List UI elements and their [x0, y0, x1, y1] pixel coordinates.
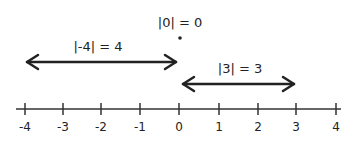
zero-annotation: |0| = 0 — [158, 15, 202, 40]
three-annotation: |3| = 3 — [183, 61, 294, 91]
tick-label: 4 — [332, 120, 340, 134]
neg-four-label: |-4| = 4 — [73, 39, 122, 54]
tick-label: -4 — [19, 120, 31, 134]
three-label: |3| = 3 — [218, 61, 262, 76]
double-arrow-icon — [27, 55, 176, 69]
tick-label: 3 — [292, 120, 300, 134]
tick-label: -2 — [95, 120, 107, 134]
number-line-diagram: -4 -3 -2 -1 0 1 2 3 4 |0| = 0 |-4| = 4 — [0, 0, 356, 155]
neg-four-annotation: |-4| = 4 — [27, 39, 176, 69]
tick-labels: -4 -3 -2 -1 0 1 2 3 4 — [19, 120, 340, 134]
zero-point-icon — [178, 36, 182, 40]
tick-label: 2 — [254, 120, 262, 134]
number-line: -4 -3 -2 -1 0 1 2 3 4 — [16, 103, 341, 134]
zero-label: |0| = 0 — [158, 15, 202, 30]
double-arrow-icon — [183, 77, 294, 91]
tick-label: 1 — [215, 120, 223, 134]
tick-label: -1 — [134, 120, 146, 134]
tick-label: 0 — [175, 120, 183, 134]
tick-label: -3 — [57, 120, 69, 134]
